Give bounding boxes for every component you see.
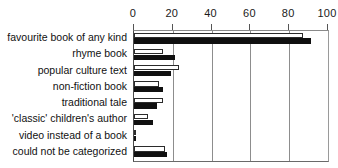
bar-series-open <box>134 114 148 119</box>
bar-chart: 020406080100 favourite book of any kindr… <box>0 0 338 168</box>
bar-series-open <box>134 81 159 86</box>
category-label: traditional tale <box>62 97 127 108</box>
bar-series-open <box>134 33 303 38</box>
category-axis-labels: favourite book of any kindrhyme bookpopu… <box>0 30 131 160</box>
category-label: 'classic' children's author <box>12 113 127 124</box>
x-axis-tick-label: 80 <box>282 7 295 19</box>
bar-series-filled <box>134 71 171 76</box>
category-label: could not be categorized <box>13 146 127 157</box>
category-label: popular culture text <box>38 65 127 76</box>
bar-series-open <box>134 65 179 70</box>
bar-series-filled <box>134 152 167 157</box>
category-label: rhyme book <box>72 48 127 59</box>
bar-series-filled <box>134 103 157 108</box>
bar-series-open <box>134 98 163 103</box>
x-axis-tick-label: 40 <box>204 7 217 19</box>
bar-series-filled <box>134 55 175 60</box>
bar-series-open <box>134 146 165 151</box>
bar-series-filled <box>134 87 163 92</box>
bar-series-filled <box>134 120 153 125</box>
x-axis-tick-label: 0 <box>130 7 136 19</box>
category-label: video instead of a book <box>19 130 127 141</box>
category-label: favourite book of any kind <box>7 32 127 43</box>
bar-series-filled <box>134 136 136 141</box>
bar-series-open <box>134 49 163 54</box>
category-label: non-fiction book <box>53 81 127 92</box>
x-axis-tick-label: 100 <box>318 7 337 19</box>
x-axis-tick-label: 20 <box>165 7 178 19</box>
x-axis-tick-label: 60 <box>243 7 256 19</box>
bar-series-container <box>134 30 327 160</box>
bar-series-open <box>134 130 136 135</box>
x-axis: 020406080100 <box>0 0 338 30</box>
bar-series-filled <box>134 38 311 43</box>
